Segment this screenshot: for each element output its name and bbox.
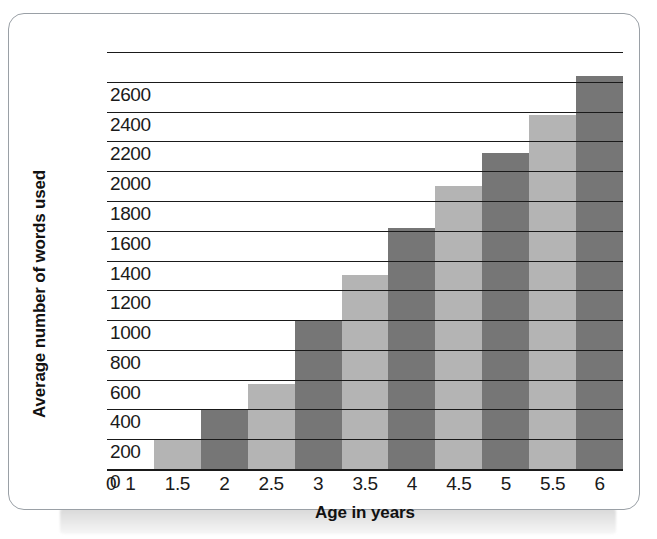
y-tick-label: 1600 bbox=[110, 233, 170, 255]
x-tick-label: 5.5 bbox=[527, 473, 579, 495]
y-axis-tick-labels: 2600240022002000180016001400120010008006… bbox=[110, 52, 170, 482]
x-tick-label: 1 bbox=[104, 473, 156, 495]
y-tick-label: 2400 bbox=[110, 114, 170, 136]
x-tick-label: 5 bbox=[480, 473, 532, 495]
y-tick-label: 1400 bbox=[110, 263, 170, 285]
figure-card: Average number of words used 26002400220… bbox=[8, 13, 640, 510]
x-tick-label: 6 bbox=[574, 473, 626, 495]
bar bbox=[248, 384, 295, 469]
gridline bbox=[107, 439, 623, 440]
gridline bbox=[107, 409, 623, 410]
x-axis-tick-labels: 011.522.533.544.555.56 bbox=[107, 473, 623, 501]
gridline bbox=[107, 141, 623, 142]
y-tick-label: 1000 bbox=[110, 322, 170, 344]
gridline bbox=[107, 112, 623, 113]
x-tick-label: 1.5 bbox=[151, 473, 203, 495]
gridline bbox=[107, 350, 623, 351]
y-tick-label: 400 bbox=[110, 411, 170, 433]
bar bbox=[529, 115, 576, 469]
x-axis-title: Age in years bbox=[107, 503, 623, 523]
bar bbox=[295, 320, 342, 469]
y-tick-label: 2200 bbox=[110, 143, 170, 165]
x-axis-line bbox=[107, 469, 623, 471]
y-tick-label: 1200 bbox=[110, 292, 170, 314]
gridline bbox=[107, 261, 623, 262]
y-axis-title-text: Average number of words used bbox=[30, 170, 50, 418]
bar bbox=[388, 228, 435, 469]
bar bbox=[435, 186, 482, 469]
x-tick-label: 2 bbox=[198, 473, 250, 495]
gridline bbox=[107, 171, 623, 172]
y-tick-label: 800 bbox=[110, 352, 170, 374]
gridline bbox=[107, 231, 623, 232]
gridline-top-frame bbox=[107, 52, 623, 53]
y-tick-label: 2600 bbox=[110, 84, 170, 106]
gridline bbox=[107, 201, 623, 202]
y-tick-label: 1800 bbox=[110, 203, 170, 225]
gridline bbox=[107, 290, 623, 291]
plot-area bbox=[107, 52, 623, 469]
y-axis-title: Average number of words used bbox=[23, 124, 57, 464]
x-tick-label: 3 bbox=[292, 473, 344, 495]
y-tick-label: 200 bbox=[110, 441, 170, 463]
x-tick-label: 4.5 bbox=[433, 473, 485, 495]
gridline bbox=[107, 82, 623, 83]
gridline bbox=[107, 320, 623, 321]
x-tick-label: 2.5 bbox=[245, 473, 297, 495]
y-tick-label: 2000 bbox=[110, 173, 170, 195]
x-tick-label: 3.5 bbox=[339, 473, 391, 495]
y-tick-label: 600 bbox=[110, 382, 170, 404]
x-tick-label: 4 bbox=[386, 473, 438, 495]
gridline bbox=[107, 380, 623, 381]
